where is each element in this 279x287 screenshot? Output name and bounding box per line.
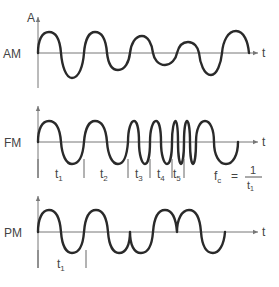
pm-interval-t1: t1 bbox=[57, 257, 65, 273]
formula-numerator: 1 bbox=[250, 164, 256, 176]
carrier-frequency-formula: fc = 1 t1 bbox=[214, 164, 262, 192]
fm-interval-t3: t3 bbox=[135, 167, 143, 183]
am-panel: A AM t bbox=[3, 11, 266, 88]
am-label: AM bbox=[3, 47, 21, 61]
fm-label: FM bbox=[4, 136, 21, 150]
fm-interval-t5: t5 bbox=[173, 167, 181, 183]
fm-t-label: t bbox=[262, 135, 266, 149]
am-waveform bbox=[38, 31, 249, 78]
fm-panel: FM t t1 t2 t3 t4 t5 fc = 1 t1 bbox=[4, 106, 266, 192]
pm-panel: PM t t1 bbox=[4, 196, 266, 273]
formula-denominator: t1 bbox=[247, 179, 254, 192]
modulation-diagram: A AM t FM t t1 t2 t3 t4 t5 fc = 1 t1 bbox=[0, 0, 279, 287]
pm-label: PM bbox=[4, 226, 22, 240]
pm-t-label: t bbox=[262, 225, 266, 239]
am-y-axis-label: A bbox=[27, 11, 35, 25]
fm-interval-t4: t4 bbox=[157, 167, 165, 183]
fm-interval-t2: t2 bbox=[100, 167, 108, 183]
formula-equals: = bbox=[231, 169, 238, 183]
am-t-label: t bbox=[262, 46, 266, 60]
formula-lhs: fc bbox=[214, 169, 221, 185]
fm-interval-t1: t1 bbox=[55, 167, 63, 183]
